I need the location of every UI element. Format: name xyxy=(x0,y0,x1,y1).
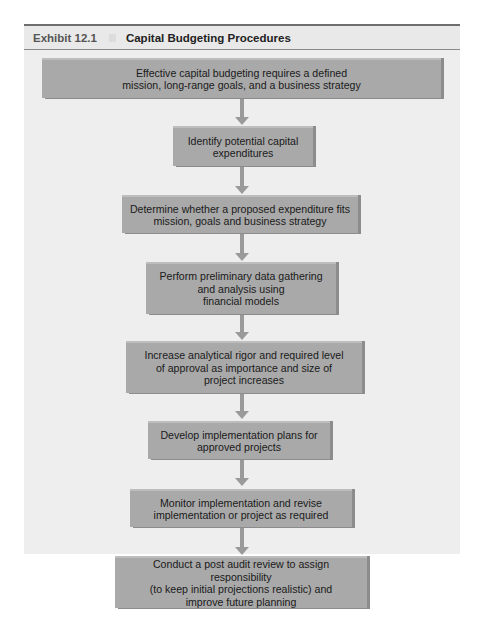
down-arrow-icon xyxy=(235,528,249,556)
flow-step-1: Effective capital budgeting requires a d… xyxy=(42,58,441,98)
flow-step-4: Perform preliminary data gathering and a… xyxy=(146,262,336,314)
flow-step-6: Develop implementation plans for approve… xyxy=(148,421,330,459)
down-arrow-icon xyxy=(235,315,249,341)
flow-step-5-label: Increase analytical rigor and required l… xyxy=(144,349,343,387)
down-arrow-icon xyxy=(235,460,249,487)
down-arrow-icon xyxy=(235,394,249,420)
down-arrow-icon xyxy=(235,234,249,262)
flow-step-3: Determine whether a proposed expenditure… xyxy=(122,195,358,233)
down-arrow-icon xyxy=(235,99,249,126)
flow-step-7: Monitor implementation and revise implem… xyxy=(130,489,352,527)
header-separator-square xyxy=(109,34,116,42)
flow-step-2-label: Identify potential capital expenditures xyxy=(188,135,299,160)
flow-step-8: Conduct a post audit review to assign re… xyxy=(115,556,367,608)
flow-step-5: Increase analytical rigor and required l… xyxy=(126,341,362,393)
exhibit-header: Exhibit 12.1 Capital Budgeting Procedure… xyxy=(24,24,460,50)
flow-step-7-label: Monitor implementation and revise implem… xyxy=(154,497,329,522)
flow-step-6-label: Develop implementation plans for approve… xyxy=(160,429,317,454)
flow-step-3-label: Determine whether a proposed expenditure… xyxy=(130,203,350,228)
flow-step-1-label: Effective capital budgeting requires a d… xyxy=(122,67,361,92)
exhibit-title: Capital Budgeting Procedures xyxy=(126,32,291,44)
flow-step-2: Identify potential capital expenditures xyxy=(173,126,313,166)
down-arrow-icon xyxy=(235,167,249,195)
flow-step-8-label: Conduct a post audit review to assign re… xyxy=(121,558,361,608)
exhibit-number: Exhibit 12.1 xyxy=(33,32,97,44)
flow-step-4-label: Perform preliminary data gathering and a… xyxy=(159,270,322,308)
